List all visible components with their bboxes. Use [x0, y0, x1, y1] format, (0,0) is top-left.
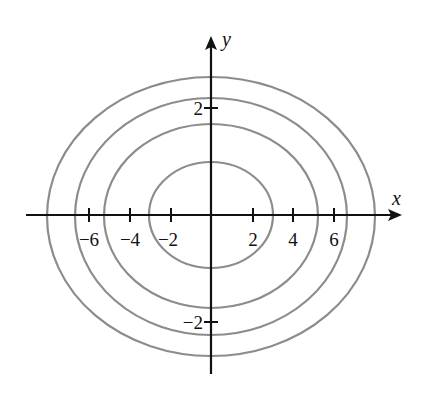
x-tick-label: −2	[158, 229, 178, 250]
x-tick-label: −4	[120, 229, 141, 250]
y-tick-label: 2	[194, 98, 204, 119]
y-axis-label: y	[220, 28, 231, 51]
x-tick-label: 2	[248, 229, 258, 250]
x-axis-label: x	[391, 187, 401, 209]
contour-plot: −6 −4 −2 2 4 6 2 −2 x y	[0, 0, 424, 399]
x-tick-label: 4	[288, 229, 298, 250]
y-tick-label: −2	[183, 312, 203, 333]
x-tick-label: −6	[79, 229, 99, 250]
x-tick-label: 6	[329, 229, 339, 250]
